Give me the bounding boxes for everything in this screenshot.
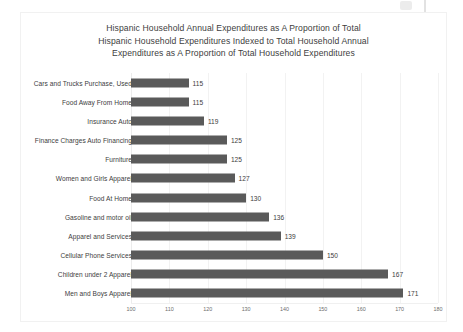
category-label: Cars and Trucks Purchase, Used	[34, 79, 132, 86]
bar-value-label: 136	[269, 213, 284, 220]
x-tick-label-110: 110	[165, 306, 174, 312]
bar[interactable]	[131, 193, 246, 202]
bar-value-label: 125	[227, 137, 242, 144]
bar-track: 127	[131, 169, 438, 188]
bar-row: Gasoline and motor oil136	[21, 207, 446, 226]
bar-row: Children under 2 Apparel167	[21, 265, 446, 284]
bar-value-label: 130	[246, 194, 261, 201]
chart-container: Hispanic Household Annual Expenditures a…	[20, 12, 447, 322]
bar-track: 115	[131, 92, 438, 111]
x-tick-label-120: 120	[203, 306, 212, 312]
x-tick-label-150: 150	[318, 306, 327, 312]
category-label: Furniture	[105, 156, 132, 163]
bar-row: Insurance Auto119	[21, 111, 446, 130]
category-label: Gasoline and motor oil	[65, 213, 132, 220]
bar-track: 150	[131, 245, 438, 264]
bar[interactable]	[131, 289, 403, 298]
bar[interactable]	[131, 97, 189, 106]
bar-row: Furniture125	[21, 150, 446, 169]
bar-value-label: 115	[189, 98, 204, 105]
bar-track: 171	[131, 284, 438, 303]
category-label: Men and Boys Apparel	[65, 290, 132, 297]
x-tick-label-180: 180	[434, 306, 443, 312]
bar-value-label: 127	[235, 175, 250, 182]
bar-track: 115	[131, 73, 438, 92]
bar-row: Cellular Phone Services150	[21, 245, 446, 264]
category-label: Apparel and Services	[68, 232, 132, 239]
category-label: Insurance Auto	[87, 117, 132, 124]
bar-row: Apparel and Services139	[21, 226, 446, 245]
category-label: Food Away From Home	[62, 98, 132, 105]
bar-row: Cars and Trucks Purchase, Used115	[21, 73, 446, 92]
bar[interactable]	[131, 270, 388, 279]
category-label: Finance Charges Auto Financing	[35, 137, 132, 144]
scan-artifact-top-right	[400, 1, 412, 10]
bar[interactable]	[131, 250, 323, 259]
bar[interactable]	[131, 174, 235, 183]
bar-value-label: 125	[227, 156, 242, 163]
category-label: Women and Girls Apparel	[56, 175, 132, 182]
x-axis-line	[131, 303, 438, 304]
bar-track: 136	[131, 207, 438, 226]
x-tick-label-170: 170	[395, 306, 404, 312]
bar-row: Food At Home130	[21, 188, 446, 207]
bar[interactable]	[131, 136, 227, 145]
bar-track: 125	[131, 150, 438, 169]
bar-value-label: 119	[204, 117, 219, 124]
plot-area: Cars and Trucks Purchase, Used115Food Aw…	[21, 13, 446, 321]
bar-track: 130	[131, 188, 438, 207]
bar[interactable]	[131, 212, 269, 221]
bar-row: Finance Charges Auto Financing125	[21, 130, 446, 149]
bar[interactable]	[131, 231, 281, 240]
bar-value-label: 150	[323, 251, 338, 258]
bar-track: 119	[131, 111, 438, 130]
category-label: Cellular Phone Services	[60, 251, 132, 258]
bar-value-label: 115	[189, 79, 204, 86]
category-label: Food At Home	[89, 194, 132, 201]
x-tick-label-140: 140	[280, 306, 289, 312]
bar-value-label: 171	[403, 290, 418, 297]
bar[interactable]	[131, 116, 204, 125]
bar-value-label: 139	[281, 232, 296, 239]
category-label: Children under 2 Apparel	[58, 271, 132, 278]
bar[interactable]	[131, 155, 227, 164]
bar-row: Women and Girls Apparel127	[21, 169, 446, 188]
bar[interactable]	[131, 78, 189, 87]
x-tick-label-160: 160	[357, 306, 366, 312]
bar-track: 167	[131, 265, 438, 284]
bar-series: Cars and Trucks Purchase, Used115Food Aw…	[21, 73, 446, 303]
bar-row: Men and Boys Apparel171	[21, 284, 446, 303]
bar-track: 125	[131, 130, 438, 149]
x-tick-label-100: 100	[127, 306, 136, 312]
bar-row: Food Away From Home115	[21, 92, 446, 111]
x-axis-tick-labels: 100110120130140150160170180	[131, 306, 438, 318]
bar-value-label: 167	[388, 271, 403, 278]
bar-track: 139	[131, 226, 438, 245]
x-tick-label-130: 130	[242, 306, 251, 312]
